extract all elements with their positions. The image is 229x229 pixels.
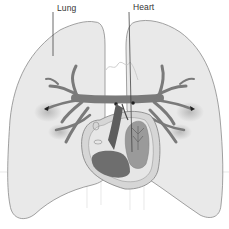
left-lung: [8, 21, 105, 218]
heart-label: Heart: [133, 2, 154, 12]
heart-chamber-right: [125, 121, 149, 168]
lung-label: Lung: [57, 3, 76, 13]
lungs-heart-illustration: [0, 0, 229, 229]
diagram-canvas: Lung Heart: [0, 0, 229, 229]
